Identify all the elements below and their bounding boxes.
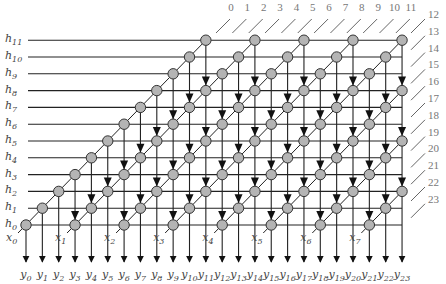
node xyxy=(250,136,260,146)
top-tick xyxy=(380,19,394,33)
h-label: h9 xyxy=(5,66,17,81)
y-label: y14 xyxy=(246,268,263,283)
node xyxy=(381,153,391,163)
node xyxy=(348,186,358,196)
arrowhead xyxy=(398,77,406,86)
node xyxy=(152,186,162,196)
node xyxy=(315,169,325,179)
arrowhead xyxy=(267,161,275,170)
right-index-label: 19 xyxy=(428,126,440,138)
top-index-label: 6 xyxy=(326,1,332,13)
right-tick xyxy=(411,204,425,218)
arrowhead xyxy=(300,127,308,136)
node xyxy=(184,153,194,163)
top-index-label: 3 xyxy=(277,1,283,13)
y-label: y23 xyxy=(393,268,410,283)
h-label: h2 xyxy=(5,183,17,198)
top-index-label: 0 xyxy=(228,1,234,13)
x-label: x6 xyxy=(300,231,311,246)
node xyxy=(135,203,145,213)
top-index-label: 4 xyxy=(294,1,300,13)
arrowhead xyxy=(316,211,324,220)
node xyxy=(381,203,391,213)
node xyxy=(364,220,374,230)
arrowhead xyxy=(202,127,210,136)
arrowhead xyxy=(251,177,259,186)
node xyxy=(103,186,113,196)
arrowhead xyxy=(365,161,373,170)
right-tick xyxy=(411,86,425,100)
x-diagonal-lines xyxy=(18,40,402,233)
right-index-label: 12 xyxy=(428,8,439,20)
y-label: y13 xyxy=(229,268,246,283)
right-index-label: 17 xyxy=(428,92,440,104)
node xyxy=(217,69,227,79)
y-label: y21 xyxy=(360,268,377,283)
x-label: x2 xyxy=(104,231,115,246)
node xyxy=(266,169,276,179)
arrowhead xyxy=(267,110,275,119)
arrowhead xyxy=(186,144,194,153)
top-tick xyxy=(314,19,328,33)
right-index-label: 13 xyxy=(428,25,440,37)
arrowhead xyxy=(300,77,308,86)
node xyxy=(364,169,374,179)
y-label: y1 xyxy=(36,268,48,283)
y-label: y10 xyxy=(180,268,197,283)
y-label: y9 xyxy=(166,268,178,283)
right-index-label: 21 xyxy=(428,159,439,171)
h-label: h10 xyxy=(5,49,22,64)
node xyxy=(315,69,325,79)
x-label: x1 xyxy=(55,231,66,246)
h-label: h8 xyxy=(5,83,17,98)
arrowhead xyxy=(382,194,390,203)
top-tick xyxy=(281,19,295,33)
top-index-label: 8 xyxy=(359,1,365,13)
right-index-label: 15 xyxy=(428,58,440,70)
node xyxy=(331,153,341,163)
h-label: h7 xyxy=(5,99,18,114)
node xyxy=(266,69,276,79)
node xyxy=(70,169,80,179)
y-label: y8 xyxy=(150,268,162,283)
y-label: y17 xyxy=(295,268,313,283)
node xyxy=(217,119,227,129)
arrowhead xyxy=(169,161,177,170)
arrowhead xyxy=(333,93,341,102)
y-label: y7 xyxy=(134,268,147,283)
node xyxy=(266,220,276,230)
h-label: h6 xyxy=(5,116,17,131)
arrowhead xyxy=(284,194,292,203)
node xyxy=(250,85,260,95)
y-label: y3 xyxy=(68,268,80,283)
top-index-label: 2 xyxy=(261,1,267,13)
arrowhead xyxy=(284,93,292,102)
node xyxy=(348,85,358,95)
node xyxy=(217,220,227,230)
arrowhead xyxy=(349,77,357,86)
arrowhead xyxy=(235,144,243,153)
node xyxy=(381,102,391,112)
node xyxy=(299,35,309,45)
top-index-label: 1 xyxy=(245,1,251,13)
right-tick xyxy=(411,69,425,83)
right-index-label: 16 xyxy=(428,75,440,87)
y-label: y16 xyxy=(278,268,295,283)
top-tick xyxy=(216,19,230,33)
arrowhead xyxy=(349,127,357,136)
arrowheads xyxy=(71,77,406,220)
arrowhead xyxy=(71,211,79,220)
arrowhead xyxy=(136,144,144,153)
right-tick xyxy=(411,153,425,167)
y-label: y11 xyxy=(197,268,214,283)
arrowhead xyxy=(349,177,357,186)
right-index-label: 23 xyxy=(428,193,440,205)
arrowhead xyxy=(382,93,390,102)
node xyxy=(299,85,309,95)
arrowhead xyxy=(186,93,194,102)
arrowhead xyxy=(398,127,406,136)
node xyxy=(217,169,227,179)
x-label: x5 xyxy=(251,231,262,246)
arrowhead xyxy=(169,110,177,119)
node xyxy=(233,203,243,213)
